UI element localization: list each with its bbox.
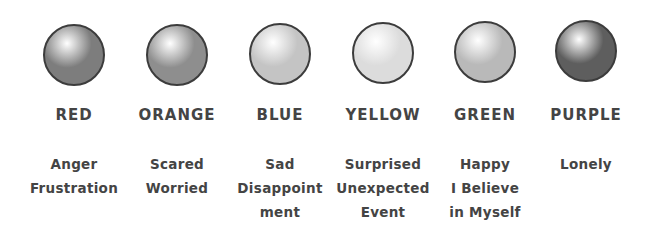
color-label: RED — [19, 106, 129, 124]
color-label: YELLOW — [328, 106, 438, 124]
color-label: PURPLE — [531, 106, 641, 124]
emotion-text: Anger — [19, 152, 129, 176]
emotion-text: Event — [328, 200, 438, 224]
emotion-text: Disappoint — [225, 176, 335, 200]
emotion-list: SurprisedUnexpectedEvent — [328, 152, 438, 224]
emotion-text: Frustration — [19, 176, 129, 200]
sphere-purple — [555, 20, 617, 82]
emotion-text: Sad — [225, 152, 335, 176]
color-label: ORANGE — [122, 106, 232, 124]
emotion-text: Surprised — [328, 152, 438, 176]
emotion-list: HappyI Believein Myself — [430, 152, 540, 224]
emotion-text: Scared — [122, 152, 232, 176]
sphere-yellow — [352, 22, 414, 84]
emotion-list: AngerFrustration — [19, 152, 129, 200]
emotion-list: ScaredWorried — [122, 152, 232, 200]
emotion-text: Lonely — [531, 152, 641, 176]
emotion-text: I Believe — [430, 176, 540, 200]
emotion-text: in Myself — [430, 200, 540, 224]
emotion-text: Happy — [430, 152, 540, 176]
sphere-blue — [249, 23, 311, 85]
emotion-list: Lonely — [531, 152, 641, 176]
sphere-red — [43, 24, 105, 86]
emotion-text: ment — [225, 200, 335, 224]
sphere-green — [454, 21, 516, 83]
sphere-orange — [146, 24, 208, 86]
emotion-text: Unexpected — [328, 176, 438, 200]
color-label: GREEN — [430, 106, 540, 124]
color-label: BLUE — [225, 106, 335, 124]
emotion-text: Worried — [122, 176, 232, 200]
emotion-list: SadDisappointment — [225, 152, 335, 224]
